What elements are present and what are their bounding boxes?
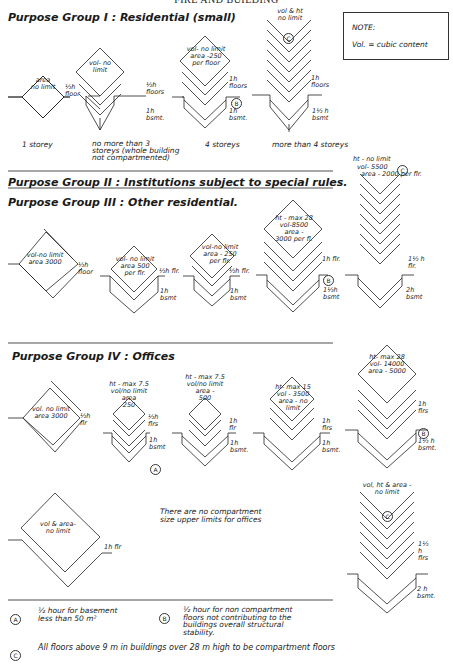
g3-d3-basement-label: 1h bsmt [230, 288, 248, 302]
g1-d2-caption: no more than 3storeys (whole buildingnot… [92, 140, 179, 161]
g4-d7-floor-label: 1½ h flrs [418, 541, 434, 562]
g1-d3-inside: vol- no limitarea -250per floor [185, 46, 227, 67]
g4-d5-inside: ht- max 28vol- 14000area - 5000 [362, 354, 412, 375]
g4-d7-basement-label: 2 h bsmt. [417, 586, 435, 600]
g1-d3-basement-label: 1h bsmt. [229, 108, 251, 122]
g3-d4-marker: B [323, 268, 334, 287]
note-text: Vol. = cubic content [352, 40, 428, 49]
g4-d1-inside: vol. no limitarea 3000 [26, 406, 76, 420]
g4-d4-floor-label: 1h flrs [322, 418, 336, 432]
footnote-a-marker: A [10, 607, 21, 626]
g4-d4-basement-label: 1h bsmt. [322, 440, 342, 454]
group-2-title: Purpose Group II : Institutions subject … [8, 176, 348, 189]
g3-d5-inside: ht - no limit vol- 5500 area - 2000 per … [353, 156, 422, 179]
g1-d2-floor-label: ½h floors [146, 82, 166, 96]
g4-d4-inside: ht- max 15vol - 3500area - nolimit [270, 384, 316, 412]
page-header: FIRE AND BUILDING [0, 0, 453, 5]
diagram-g4-1-b [8, 388, 82, 452]
g1-d1-caption: 1 storey [22, 141, 53, 150]
g4-d2-inside: ht - max 7.5vol/no limitarea250 [105, 381, 153, 409]
footnote-b-text: ½ hour for non compartmentfloors not con… [183, 606, 292, 636]
g3-d5-floor-label: 1½ h flr. [408, 256, 428, 270]
g3-d5-basement-label: 2h bsmt [406, 287, 424, 301]
g3-d5-marker: C [397, 158, 408, 177]
g4-d2-basement-label: 1h bsmt [149, 437, 165, 451]
g1-d2-basement-label: 1h bsmt. [146, 108, 168, 122]
g4-remark: There are no compartmentsize upper limit… [160, 508, 262, 524]
g1-d4-marker: C [283, 26, 294, 45]
g4-d6-inside: vol & area-no limit [30, 521, 86, 535]
g3-d4-inside: ht - max 28vol-8500area -3000 per fl. [266, 215, 322, 243]
g4-d5-floor-label: 1h flrs [418, 401, 432, 415]
diagram-g3-5 [345, 174, 414, 308]
g1-d4-floor-label: 1h floors [311, 75, 331, 89]
g3-d1-inside: vol-no limitarea 3000 [20, 252, 70, 266]
g3-d4-basement-label: 1½h bsmt [323, 287, 343, 301]
g4-d2-floor-label: ½h flrs [148, 414, 162, 428]
compartment-diagrams-linework [0, 0, 453, 664]
g1-d4-inside: vol & htno limit [272, 8, 308, 22]
g1-d1-floor-label: ½h floor [65, 84, 83, 98]
g4-d2-marker: A [150, 457, 161, 476]
g3-d1-floor-label: ½h floor [78, 262, 96, 276]
g1-d3-floor-label: 1h floors [229, 76, 249, 90]
g3-d2-inside: vol- no limitarea 500per flr. [112, 256, 158, 277]
g4-d6-floor-label: 1h flr [104, 544, 121, 551]
g1-d1-inside: areano limit [28, 77, 58, 91]
g3-d2-basement-label: 1h bsmt [160, 288, 178, 302]
note-box: NOTE: Vol. = cubic content [343, 12, 449, 60]
group-3-title: Purpose Group III : Other residential. [8, 196, 238, 209]
g1-d4-basement-label: 1½ h bsmt [312, 108, 334, 122]
g3-d3-floor-label: ½h flr. [229, 268, 250, 275]
g1-d4-caption: more than 4 storeys [272, 141, 348, 150]
g3-d4-floor-label: 1h flr. [322, 256, 341, 263]
footnote-c-marker: C [10, 643, 21, 662]
diagram-g4-3 [172, 398, 236, 466]
group-1-title: Purpose Group I : Residential (small) [8, 11, 236, 24]
footnote-a-text: ½ hour for basementless than 50 m² [38, 607, 117, 622]
g4-d1-floor-label: ½h flr [80, 413, 94, 427]
footnote-b-marker: B [159, 606, 170, 625]
g4-d3-inside: ht - max 7.5vol/no limitarea -500 [180, 374, 230, 402]
g4-d7-marker: C [382, 504, 393, 523]
g1-d3-caption: 4 storeys [205, 141, 240, 150]
g3-d3-inside: vol-no limitarea - 250per flr. [196, 244, 244, 265]
g4-d7-inside: vol, ht & area -no limit [357, 482, 417, 496]
g4-d5-basement-label: 1½ h bsmt. [418, 438, 440, 452]
group-4-title: Purpose Group IV : Offices [12, 350, 175, 363]
note-title: NOTE: [352, 23, 375, 32]
g3-d2-floor-label: ½h flr. [159, 268, 180, 275]
g4-d3-floor-label: 1h flr [229, 418, 243, 432]
footnote-c-text: All floors above 9 m in buildings over 2… [38, 644, 335, 653]
g4-d3-basement-label: 1h bsmt. [230, 440, 250, 454]
diagram-g4-6 [8, 493, 112, 587]
g1-d2-inside: vol- nolimit [84, 60, 116, 74]
